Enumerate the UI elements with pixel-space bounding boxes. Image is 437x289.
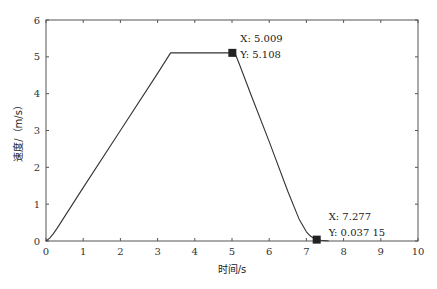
- data-tips: X: 5.009Y: 5.108X: 7.277Y: 0.037 15: [228, 33, 385, 244]
- x-tick-label: 6: [266, 246, 272, 257]
- x-tick-label: 7: [303, 246, 309, 257]
- speed-line: [46, 53, 329, 241]
- y-tick-label: 1: [34, 199, 40, 210]
- datatip-marker: [228, 49, 236, 57]
- x-tick-label: 1: [80, 246, 86, 257]
- y-tick-label: 0: [34, 236, 40, 247]
- y-tick-label: 2: [34, 162, 40, 173]
- x-tick-label: 3: [154, 246, 160, 257]
- speed-time-chart: 0123456789100123456 X: 5.009Y: 5.108X: 7…: [0, 0, 437, 289]
- y-tick-label: 6: [34, 15, 40, 26]
- datatip-y-label: Y: 5.108: [239, 49, 281, 60]
- y-tick-label: 5: [34, 51, 40, 62]
- data-series: [46, 53, 329, 241]
- y-axis-label: 速度/（m/s）: [12, 100, 24, 162]
- x-tick-label: 0: [43, 246, 49, 257]
- datatip-y-label: Y: 0.037 15: [328, 227, 385, 238]
- x-tick-label: 10: [412, 246, 425, 257]
- datatip-marker: [313, 236, 321, 244]
- x-axis-label: 时间/s: [218, 263, 247, 275]
- datatip-x-label: X: 7.277: [329, 211, 371, 222]
- x-tick-label: 5: [229, 246, 235, 257]
- y-tick-label: 4: [34, 88, 40, 99]
- x-tick-label: 9: [378, 246, 384, 257]
- y-tick-label: 3: [34, 125, 40, 136]
- x-tick-label: 8: [340, 246, 346, 257]
- x-tick-label: 2: [117, 246, 123, 257]
- datatip-x-label: X: 5.009: [240, 33, 282, 44]
- x-tick-label: 4: [192, 246, 198, 257]
